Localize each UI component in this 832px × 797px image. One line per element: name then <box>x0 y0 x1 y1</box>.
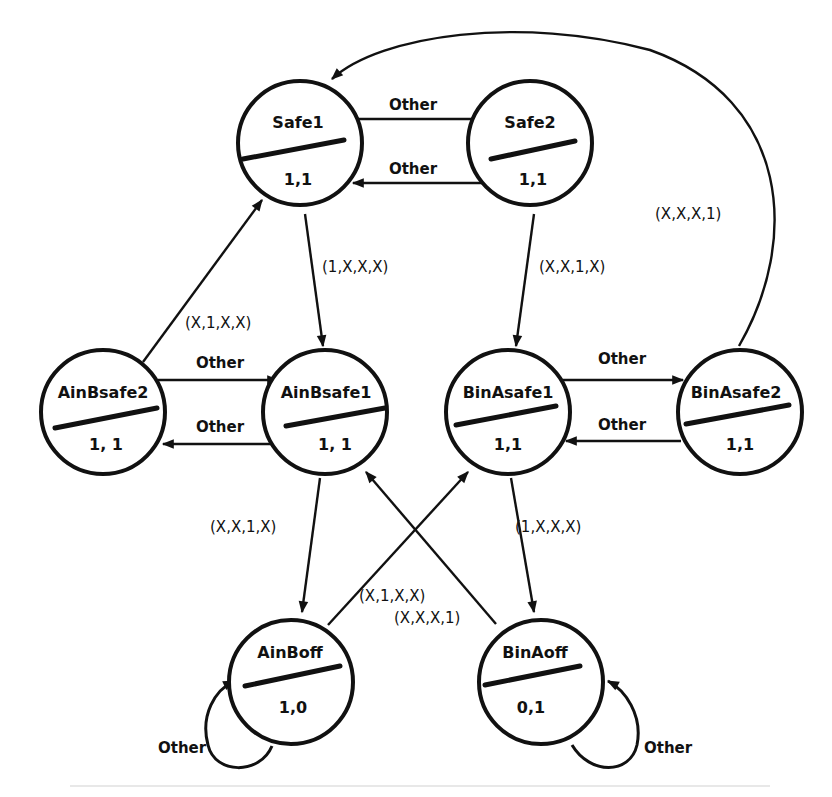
state-ainboff: AinBoff 1,0 <box>229 620 353 744</box>
state-output: 0,1 <box>517 698 545 717</box>
state-name: BinAsafe2 <box>691 383 782 402</box>
state-output: 1, 1 <box>89 435 123 454</box>
edge-ainbsafe1-to-ainboff <box>302 478 320 612</box>
edge-label: Other <box>158 739 207 757</box>
edge-ainbsafe2-to-safe1 <box>143 200 262 362</box>
edge-safe2-to-binasafe1 <box>516 214 534 346</box>
edge-label: (1,X,X,X) <box>322 258 388 276</box>
edge-label: (X,X,X,1) <box>394 609 460 627</box>
edge-label: Other <box>196 418 245 436</box>
edge-label: Other <box>598 350 647 368</box>
edge-label: (1,X,X,X) <box>515 518 581 536</box>
state-name: AinBsafe2 <box>58 383 149 402</box>
state-ainbsafe2: AinBsafe2 1, 1 <box>41 350 165 474</box>
edge-binasafe1-to-binaoff <box>511 478 534 612</box>
edge-label: Other <box>598 416 647 434</box>
edge-label: (X,X,X,1) <box>655 205 721 223</box>
edge-label: Other <box>389 160 438 178</box>
state-name: AinBsafe1 <box>281 383 372 402</box>
state-output: 1,0 <box>279 698 307 717</box>
state-binaoff: BinAoff 0,1 <box>479 620 603 744</box>
edge-label: Other <box>389 96 438 114</box>
edge-safe1-to-ainbsafe1 <box>305 214 323 346</box>
caption-residue <box>70 785 770 787</box>
state-diagram: Safe1 1,1 Safe2 1,1 AinBsafe2 1, 1 AinBs… <box>0 0 832 797</box>
state-name: AinBoff <box>257 643 323 662</box>
edge-label: (X,1,X,X) <box>359 587 425 605</box>
state-name: Safe2 <box>504 113 555 132</box>
state-name: BinAoff <box>502 643 568 662</box>
edge-label: (X,X,1,X) <box>210 518 276 536</box>
edge-label: Other <box>196 354 245 372</box>
edge-label: (X,X,1,X) <box>539 258 605 276</box>
state-safe2: Safe2 1,1 <box>468 81 592 205</box>
state-output: 1,1 <box>284 170 312 189</box>
state-name: Safe1 <box>272 113 323 132</box>
state-name: BinAsafe1 <box>463 383 554 402</box>
state-output: 1,1 <box>726 435 754 454</box>
edge-label: Other <box>644 739 693 757</box>
state-output: 1,1 <box>519 170 547 189</box>
state-safe1: Safe1 1,1 <box>238 81 362 205</box>
edge-label: (X,1,X,X) <box>185 314 251 332</box>
state-binasafe1: BinAsafe1 1,1 <box>446 350 570 474</box>
state-ainbsafe1: AinBsafe1 1, 1 <box>263 350 387 474</box>
state-output: 1,1 <box>494 435 522 454</box>
state-output: 1, 1 <box>318 435 352 454</box>
state-binasafe2: BinAsafe2 1,1 <box>678 350 802 474</box>
